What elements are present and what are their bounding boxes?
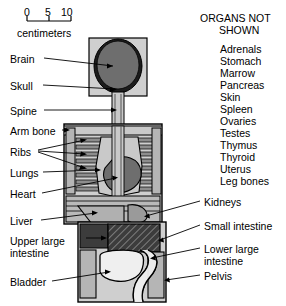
scale-bar-graphic <box>27 16 71 21</box>
head-group <box>89 38 147 96</box>
torso-group <box>64 124 162 224</box>
bladder-shape <box>100 250 143 281</box>
upper-large-intestine-shape <box>80 224 108 248</box>
leader-pelvis <box>166 275 200 280</box>
anatomy-diagram-page: 0 5 10 centimeters ORGANS NOT SHOWN Adre… <box>0 0 286 306</box>
arm-bone-right <box>152 128 161 194</box>
human-body-cross-section-figure <box>0 0 286 306</box>
abdomen-pelvis-group <box>78 222 166 302</box>
arm-bone-left <box>66 128 75 194</box>
small-intestine-shape <box>108 224 160 252</box>
